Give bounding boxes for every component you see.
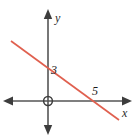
- x-axis-label: x: [121, 106, 128, 120]
- plotted-line: [11, 41, 119, 120]
- coordinate-plane-figure: y x 3 5: [0, 0, 136, 139]
- y-intercept-label: 3: [50, 63, 57, 77]
- y-axis-down-arrow-icon: [44, 125, 52, 135]
- x-axis-right-arrow-icon: [122, 97, 132, 106]
- x-axis-left-arrow-icon: [3, 97, 13, 106]
- y-axis-up-arrow-icon: [44, 9, 52, 19]
- x-intercept-label: 5: [92, 84, 98, 98]
- y-axis-label: y: [54, 11, 61, 25]
